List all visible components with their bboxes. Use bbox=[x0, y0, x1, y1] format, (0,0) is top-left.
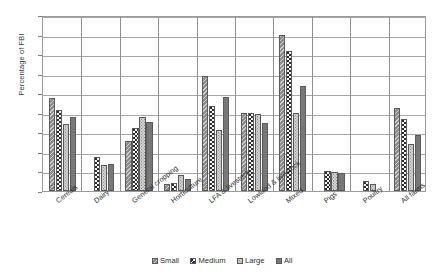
bar bbox=[223, 97, 229, 191]
bar bbox=[164, 184, 170, 191]
y-axis-tick-mark bbox=[38, 192, 42, 193]
bar bbox=[394, 108, 400, 191]
legend-swatch-icon bbox=[190, 258, 196, 264]
bar bbox=[363, 181, 369, 191]
legend-swatch-icon bbox=[152, 258, 158, 264]
legend-item[interactable]: Large bbox=[237, 256, 265, 265]
legend-item-label: All bbox=[284, 256, 292, 265]
bar bbox=[255, 114, 261, 191]
bar bbox=[56, 110, 62, 191]
y-axis-title: Percentage of FBI bbox=[17, 5, 26, 125]
bar-group bbox=[235, 17, 273, 191]
bar-group bbox=[389, 17, 427, 191]
bar bbox=[331, 172, 337, 191]
legend-item-label: Large bbox=[245, 256, 264, 265]
bar bbox=[300, 86, 306, 191]
bar-group bbox=[81, 17, 119, 191]
bar bbox=[70, 117, 76, 191]
bar bbox=[209, 106, 215, 191]
plot-area bbox=[42, 16, 426, 192]
bar bbox=[216, 130, 222, 191]
bar bbox=[94, 157, 100, 191]
bar bbox=[248, 113, 254, 191]
bar bbox=[108, 164, 114, 191]
bar bbox=[408, 144, 414, 191]
bar bbox=[63, 124, 69, 191]
legend-swatch-icon bbox=[276, 258, 282, 264]
bar bbox=[171, 183, 177, 191]
legend-item-label: Medium bbox=[199, 256, 226, 265]
bar-group bbox=[43, 17, 81, 191]
chart-legend: SmallMediumLargeAll bbox=[0, 256, 444, 265]
bar bbox=[401, 119, 407, 191]
legend-swatch-icon bbox=[237, 258, 243, 264]
bar bbox=[338, 173, 344, 191]
x-axis-tick-labels: CerealsDairyGeneral croppingHorticulture… bbox=[42, 196, 426, 248]
bar bbox=[202, 76, 208, 191]
legend-item[interactable]: All bbox=[276, 256, 293, 265]
bar-group bbox=[197, 17, 235, 191]
legend-item-label: Small bbox=[160, 256, 179, 265]
bar bbox=[293, 113, 299, 191]
bar bbox=[139, 117, 145, 191]
bar-group bbox=[350, 17, 388, 191]
legend-item[interactable]: Medium bbox=[190, 256, 226, 265]
bar bbox=[324, 171, 330, 191]
bar-chart: Percentage of FBI 0204060801001201401601… bbox=[0, 0, 444, 279]
bar-group bbox=[120, 17, 158, 191]
bar bbox=[132, 128, 138, 191]
legend-item[interactable]: Small bbox=[152, 256, 180, 265]
bar-group bbox=[312, 17, 350, 191]
bar bbox=[49, 98, 55, 191]
bar-series-layer bbox=[43, 17, 425, 191]
bar-group bbox=[158, 17, 196, 191]
bar bbox=[125, 141, 131, 191]
